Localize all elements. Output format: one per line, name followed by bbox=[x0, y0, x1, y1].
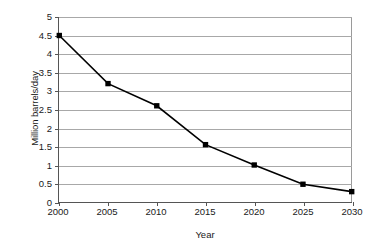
data-point-marker bbox=[105, 81, 110, 86]
x-axis-tick-label: 2020 bbox=[232, 206, 276, 217]
y-axis-tick-labels: 00.511.522.533.544.55 bbox=[0, 17, 52, 203]
x-axis-tick-label: 2000 bbox=[36, 206, 80, 217]
x-axis-tick-labels: 2000200520102015202020252030 bbox=[58, 206, 352, 220]
y-axis-tick-label: 5 bbox=[6, 12, 52, 22]
y-axis-tick-label: 2.5 bbox=[6, 105, 52, 115]
y-axis-tick-label: 4 bbox=[6, 49, 52, 59]
x-axis-tick-label: 2025 bbox=[281, 206, 325, 217]
y-axis-tick-label: 1 bbox=[6, 161, 52, 171]
y-axis-tick-label: 2 bbox=[6, 124, 52, 134]
data-series-line bbox=[59, 17, 352, 202]
x-axis-tick-label: 2015 bbox=[183, 206, 227, 217]
x-axis-title: Year bbox=[58, 229, 352, 240]
data-point-marker bbox=[203, 142, 208, 147]
data-point-marker bbox=[252, 162, 257, 167]
y-axis-tick-label: 3 bbox=[6, 86, 52, 96]
data-point-marker bbox=[154, 103, 159, 108]
y-axis-tick-label: 4.5 bbox=[6, 31, 52, 41]
y-axis-tick-label: 3.5 bbox=[6, 68, 52, 78]
x-axis-tick-label: 2010 bbox=[134, 206, 178, 217]
data-point-marker bbox=[57, 33, 62, 38]
y-axis-tick-label: 0.5 bbox=[6, 179, 52, 189]
data-point-marker bbox=[300, 182, 305, 187]
plot-area bbox=[58, 17, 352, 203]
line-chart: Million barrels/day 00.511.522.533.544.5… bbox=[0, 0, 365, 251]
y-axis-tick-label: 1.5 bbox=[6, 142, 52, 152]
series-polyline bbox=[59, 36, 351, 192]
x-axis-tick-label: 2005 bbox=[85, 206, 129, 217]
x-axis-tick-label: 2030 bbox=[330, 206, 365, 217]
data-point-marker bbox=[349, 189, 354, 194]
